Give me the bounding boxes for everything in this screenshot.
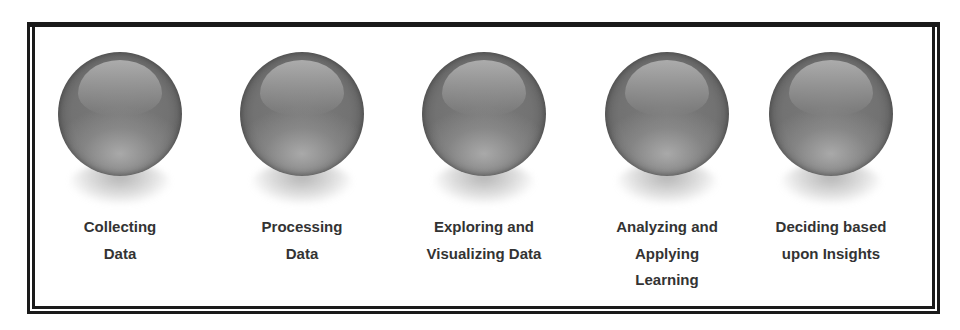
step-label-line: Data [35,241,205,268]
step-processing-data: Processing Data [217,50,387,267]
step-analyzing-applying-learning: Analyzing and Applying Learning [582,50,752,294]
step-label-line: Deciding based [746,214,916,241]
step-collecting-data: Collecting Data [35,50,205,267]
step-label-line: Data [217,241,387,268]
step-label: Deciding based upon Insights [746,214,916,267]
step-label-line: Visualizing Data [399,241,569,268]
sphere-icon [58,50,182,208]
sphere-body [769,52,893,176]
step-label-line: Processing [217,214,387,241]
step-label: Analyzing and Applying Learning [582,214,752,294]
step-label-line: upon Insights [746,241,916,268]
sphere-highlight [625,60,709,116]
sphere-body [240,52,364,176]
sphere-highlight [260,60,344,116]
sphere-icon [422,50,546,208]
sphere-icon [605,50,729,208]
sphere-highlight [442,60,526,116]
sphere-icon [240,50,364,208]
step-label: Processing Data [217,214,387,267]
step-label-line: Applying [582,241,752,268]
sphere-highlight [78,60,162,116]
step-label-line: Analyzing and [582,214,752,241]
step-exploring-visualizing-data: Exploring and Visualizing Data [399,50,569,267]
step-label-line: Collecting [35,214,205,241]
step-label-line: Learning [582,267,752,294]
sphere-icon [769,50,893,208]
sphere-body [605,52,729,176]
sphere-body [422,52,546,176]
sphere-highlight [789,60,873,116]
step-label-line: Exploring and [399,214,569,241]
step-label: Exploring and Visualizing Data [399,214,569,267]
step-deciding-upon-insights: Deciding based upon Insights [746,50,916,267]
process-steps: Collecting Data Processing Data Explorin… [0,0,960,330]
sphere-body [58,52,182,176]
step-label: Collecting Data [35,214,205,267]
